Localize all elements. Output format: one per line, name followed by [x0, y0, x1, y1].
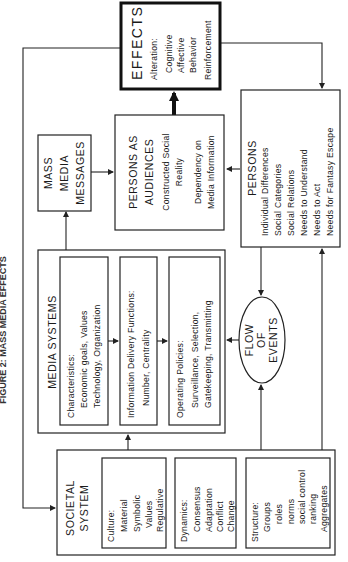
mass-media-effects-diagram: FIGURE 2: MASS MEDIA EFFECTS — [0, 0, 348, 562]
culture-label: Culture: — [106, 510, 116, 543]
persons-item: Needs to Understand — [299, 149, 309, 236]
persons-item: Social Relations — [286, 170, 296, 236]
societal-system-heading: SOCIETAL — [64, 480, 76, 536]
effects-item: Behavior — [188, 37, 198, 73]
structure-label: Structure: — [250, 502, 260, 542]
structure-item: ranking — [308, 494, 318, 524]
characteristics-box: Characteristics: Economic goals, Values … — [60, 257, 108, 425]
culture-item: Material — [119, 499, 129, 532]
persons-as-audiences-item: Constructed Social — [161, 133, 171, 211]
structure-item: social control — [297, 470, 307, 524]
culture-box: Culture: Material Symbolic Values Regula… — [102, 458, 166, 548]
operating-policies-line: Gatekeeping, Transmitting — [203, 300, 213, 408]
dynamics-item: Conflict — [215, 501, 225, 532]
information-delivery-box: Information Delivery Functions: Number, … — [120, 257, 157, 425]
figure-title: FIGURE 2: MASS MEDIA EFFECTS — [0, 256, 8, 404]
structure-item: Groups — [262, 502, 272, 532]
mass-media-messages-box: MASS MEDIA MESSAGES — [38, 135, 91, 211]
culture-item: Regulative — [155, 488, 165, 532]
culture-item: Symbolic — [132, 494, 142, 532]
structure-box: Structure: Groups roles norms social con… — [246, 458, 330, 548]
characteristics-line: Economic goals, Values — [79, 310, 89, 408]
characteristics-line: Technology, Organization — [92, 304, 102, 408]
operating-policies-line: Surveillance, Selection, — [190, 311, 200, 408]
persons-as-audiences-heading: AUDIENCES — [143, 139, 155, 206]
media-systems-heading: MEDIA SYSTEMS — [46, 295, 58, 389]
dynamics-box: Dynamics: Consensus Adaptation Conflict … — [175, 458, 236, 548]
media-systems-box: MEDIA SYSTEMS Characteristics: Economic … — [38, 250, 225, 433]
dynamics-item: Adaptation — [204, 488, 214, 532]
effects-item: Cognitive — [164, 34, 174, 73]
dynamics-item: Change — [226, 500, 236, 532]
effects-subheading: Alteration: — [149, 38, 159, 80]
flow-of-events-label: OF — [255, 332, 267, 348]
effects-item: Affective — [176, 37, 186, 73]
information-delivery-line: Number, Centrality — [141, 329, 151, 406]
effects-footer: Reinforcement — [203, 20, 213, 80]
persons-as-audiences-heading: PERSONS AS — [127, 135, 139, 209]
information-delivery-label: Information Delivery Functions: — [126, 290, 136, 418]
dynamics-item: Consensus — [192, 486, 202, 532]
persons-heading: PERSONS — [246, 140, 258, 196]
mass-media-messages-label: MESSAGES — [74, 141, 86, 205]
operating-policies-label: Operating Policies: — [175, 340, 185, 418]
effects-heading: EFFECTS — [129, 6, 145, 80]
flow-of-events-ellipse: FLOW OF EVENTS — [239, 297, 285, 383]
mass-media-messages-label: MEDIA — [58, 155, 70, 191]
persons-item: Individual Differences — [260, 147, 270, 236]
persons-box: PERSONS Individual Differences Social Ca… — [241, 90, 340, 247]
persons-as-audiences-item: Media Information — [206, 135, 216, 209]
mass-media-messages-label: MASS — [42, 157, 54, 189]
characteristics-label: Characteristics: — [66, 354, 76, 418]
persons-item: Social Categories — [273, 164, 283, 236]
societal-system-box: SOCIETAL SYSTEM Culture: Material Symbol… — [57, 450, 335, 555]
structure-item: Aggregates — [319, 485, 329, 532]
operating-policies-box: Operating Policies: Surveillance, Select… — [169, 257, 220, 425]
persons-item: Needs to Act — [312, 183, 322, 236]
dynamics-label: Dynamics: — [179, 499, 189, 542]
flow-of-events-label: EVENTS — [267, 317, 279, 363]
structure-item: roles — [274, 504, 284, 524]
societal-system-heading: SYSTEM — [78, 485, 90, 532]
flow-of-events-label: FLOW — [243, 324, 255, 357]
culture-item: Values — [144, 501, 154, 528]
structure-item: norms — [286, 499, 296, 524]
persons-as-audiences-item: Reality — [174, 157, 184, 186]
persons-item: Needs for Fantasy Escape — [325, 128, 335, 236]
persons-as-audiences-box: PERSONS AS AUDIENCES Constructed Social … — [115, 115, 224, 230]
persons-as-audiences-item: Dependency on — [193, 140, 203, 204]
feedback-effects-to-persons-connector — [220, 43, 322, 88]
effects-box: EFFECTS Alteration: Cognitive Affective … — [121, 3, 220, 89]
